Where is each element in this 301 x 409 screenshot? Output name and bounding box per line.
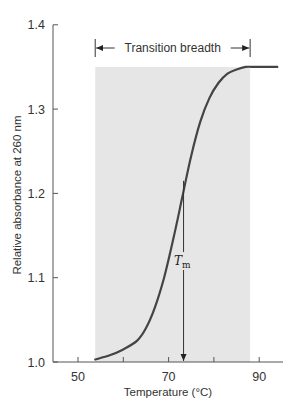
tm-subscript: m <box>182 260 191 270</box>
y-tick-label: 1.2 <box>28 187 45 201</box>
melting-curve-chart: 1.01.11.21.31.4 507090 Relative absorban… <box>0 0 301 409</box>
x-tick-label: 70 <box>162 370 176 384</box>
y-tick-label: 1.0 <box>28 356 45 370</box>
transition-breadth-label: Transition breadth <box>125 41 221 55</box>
y-tick-label: 1.4 <box>28 18 45 32</box>
transition-breadth-annotation: Transition breadth <box>95 39 250 57</box>
x-axis-title: Temperature (°C) <box>124 386 212 398</box>
y-tick-label: 1.3 <box>28 103 45 117</box>
x-tick-label: 50 <box>71 370 85 384</box>
y-axis-title: Relative absorbance at 260 nm <box>11 115 23 274</box>
x-tick-label: 90 <box>252 370 266 384</box>
y-tick-label: 1.1 <box>28 271 45 285</box>
transition-shaded-region <box>95 67 250 362</box>
